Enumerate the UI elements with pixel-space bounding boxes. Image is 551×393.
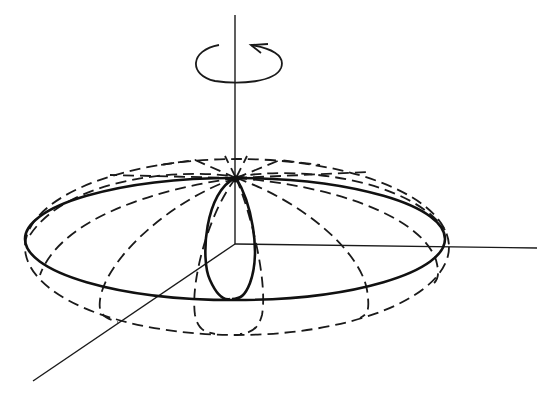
diagonal-y-axis [33,244,235,381]
meridian-line [236,178,438,285]
front-meridian-loop [205,178,236,299]
pole-point [233,176,240,183]
horizontal-x-axis [235,244,537,248]
spheroid-diagram [0,0,551,393]
rotation-arrow-icon [196,44,282,83]
meridian-line [236,178,263,334]
outer-silhouette-ellipse [25,159,449,335]
